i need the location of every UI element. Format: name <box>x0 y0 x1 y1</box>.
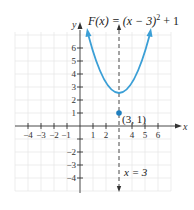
function-title: F(x) = (x − 3)2 + 1 <box>87 13 179 28</box>
x-tick-label: −1 <box>61 130 71 140</box>
y-axis <box>77 30 83 193</box>
x-tick-label: 2 <box>104 130 109 140</box>
curve-right-arrow-icon <box>147 28 153 37</box>
y-tick-label: 1 <box>72 108 77 118</box>
x-tick-label: −3 <box>36 130 46 140</box>
parabola-chart: −4 −3 −2 −1 1 2 4 5 6 6 5 4 3 2 1 −2 −3 … <box>0 0 194 210</box>
x-axis-label: x <box>182 121 188 132</box>
y-tick-label: 6 <box>72 43 77 53</box>
x-tick-label: 6 <box>156 130 161 140</box>
x-axis-arrow-icon <box>175 124 182 129</box>
x-tick-label: 5 <box>143 130 148 140</box>
x-tick-label: 1 <box>91 130 96 140</box>
title-lhs: F(x) = (x − 3) <box>87 14 156 28</box>
x-axis <box>15 123 178 129</box>
vertex-label: (3, 1) <box>122 113 146 126</box>
symmetry-label: x = 3 <box>123 166 148 178</box>
x-tick-label: −4 <box>23 130 33 140</box>
x-tick-label: −2 <box>49 130 59 140</box>
y-axis-arrow-icon <box>78 22 83 29</box>
title-rhs: + 1 <box>160 14 179 28</box>
x-tick-label: 4 <box>130 130 135 140</box>
y-axis-label: y <box>71 19 77 30</box>
y-tick-label: −3 <box>66 160 76 170</box>
y-tick-label: −4 <box>66 173 76 183</box>
y-tick-label: −2 <box>66 147 76 157</box>
y-tick-label: 5 <box>72 56 77 66</box>
y-tick-label: 4 <box>72 69 77 79</box>
y-tick-label: 3 <box>72 82 77 92</box>
curve-left-arrow-icon <box>86 28 92 37</box>
y-tick-label: 2 <box>72 95 77 105</box>
grid <box>15 32 171 191</box>
vertex-point <box>116 110 122 116</box>
